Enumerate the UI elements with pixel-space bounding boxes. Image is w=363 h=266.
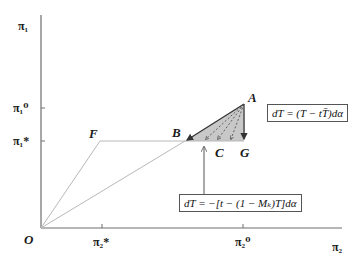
pi2-zero-label: π₂⁰ — [235, 236, 250, 248]
point-c-label: C — [215, 146, 224, 159]
equation-box-lower: dT = −[t − (1 − Mₖ)T]dα — [179, 194, 302, 212]
point-g-label: G — [240, 146, 249, 159]
y-axis-label: π₁ — [18, 20, 28, 32]
point-b-label: B — [172, 126, 181, 139]
diagram-canvas — [0, 0, 363, 266]
point-f-label: F — [89, 127, 98, 140]
pi1-star-label: π₁* — [13, 135, 29, 147]
line-o-f — [41, 141, 100, 228]
point-a-label: A — [248, 91, 257, 104]
equation-box-upper: dT = (T − tT̄)dα — [267, 104, 348, 122]
x-axis-label: π₂ — [332, 241, 342, 253]
pi1-zero-label: π₁⁰ — [13, 102, 28, 114]
line-o-b — [41, 141, 185, 228]
origin-label: O — [24, 233, 33, 246]
pi2-star-label: π₂* — [93, 236, 109, 248]
